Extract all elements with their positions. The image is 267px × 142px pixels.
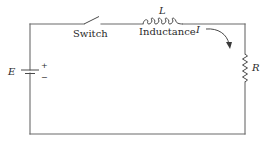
switch-icon <box>84 17 99 25</box>
inductor-symbol: L <box>158 5 166 16</box>
switch-label: Switch <box>73 28 108 39</box>
source-minus: − <box>41 73 48 82</box>
current-symbol: I <box>195 24 201 35</box>
inductor-icon <box>143 18 183 24</box>
resistor-symbol: R <box>251 62 260 73</box>
source-symbol: E <box>7 66 16 77</box>
inductor-label: Inductance <box>139 26 196 37</box>
resistor-icon <box>243 54 248 82</box>
circuit-diagram: Switch L Inductance I R E + − <box>0 0 267 142</box>
source-plus: + <box>41 61 48 70</box>
current-arrow-icon <box>206 29 232 49</box>
